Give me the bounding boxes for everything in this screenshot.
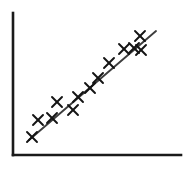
data-point-x-marker: [135, 31, 145, 41]
data-point-x-marker: [33, 115, 43, 125]
data-point-x-marker: [104, 58, 114, 68]
data-point-x-marker: [85, 83, 95, 93]
data-point-x-marker: [136, 45, 146, 55]
data-point-x-marker: [119, 44, 129, 54]
data-point-x-marker: [52, 97, 62, 107]
data-point-x-marker: [68, 105, 78, 115]
data-point-x-marker: [27, 132, 37, 142]
data-point-x-marker: [73, 92, 83, 102]
plot-canvas: [0, 0, 196, 169]
scatter-plot-figure: [0, 0, 196, 169]
axis-layer: [13, 13, 181, 155]
